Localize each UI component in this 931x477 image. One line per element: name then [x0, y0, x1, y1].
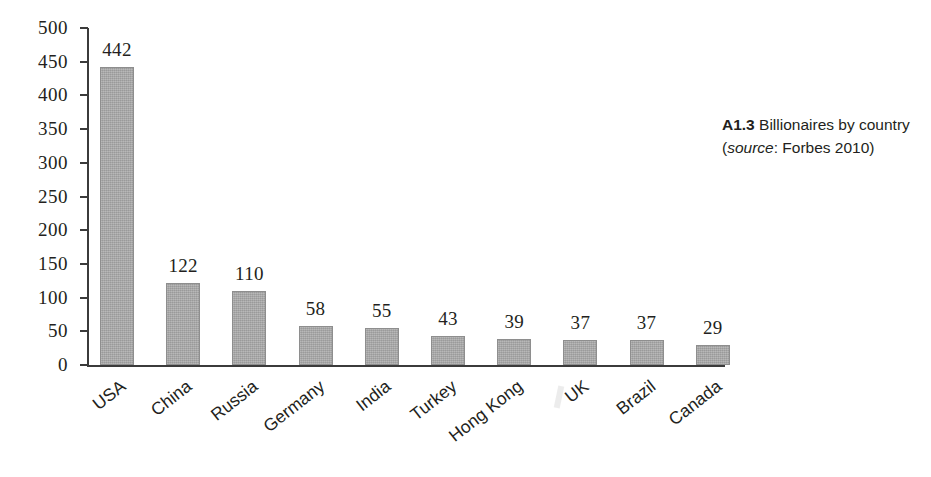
y-axis-tick-label: 150	[38, 253, 68, 275]
bar-value-label: 43	[438, 308, 458, 330]
bar: 29Canada	[696, 345, 730, 365]
bar-value-label: 122	[168, 255, 197, 277]
y-axis-tick	[80, 128, 88, 130]
figure-caption: A1.3 Billionaires by country (source: Fo…	[722, 114, 922, 160]
x-axis-category-label: Canada	[664, 376, 725, 430]
y-axis-tick	[80, 297, 88, 299]
bar: 55India	[365, 328, 399, 365]
bar: 43Turkey	[431, 336, 465, 365]
bar: 58Germany	[299, 326, 333, 365]
scan-artifact	[554, 386, 564, 409]
bar: 442USA	[100, 67, 134, 365]
caption-text-tail: : Forbes 2010)	[774, 139, 875, 156]
bar: 110Russia	[232, 291, 266, 365]
y-axis-tick	[80, 61, 88, 63]
y-axis-tick	[80, 263, 88, 265]
y-axis-tick-label: 200	[38, 219, 68, 241]
bar-value-label: 29	[703, 317, 723, 339]
y-axis-tick	[80, 196, 88, 198]
y-axis-tick-label: 300	[38, 152, 68, 174]
y-axis-tick	[80, 162, 88, 164]
bar-chart-plot-area: 050100150200250300350400450500 442USA122…	[88, 28, 725, 365]
bar-value-label: 58	[306, 298, 326, 320]
bar: 37Brazil	[630, 340, 664, 365]
x-axis-category-label: Brazil	[612, 376, 659, 419]
x-axis-line	[87, 365, 725, 367]
figure-container: 050100150200250300350400450500 442USA122…	[0, 0, 931, 477]
x-axis-category-label: USA	[89, 376, 130, 415]
x-axis-category-label: India	[352, 376, 395, 416]
x-axis-category-label: UK	[561, 376, 593, 408]
y-axis-tick-label: 100	[38, 287, 68, 309]
bar-value-label: 110	[235, 263, 264, 285]
bar-value-label: 37	[571, 312, 591, 334]
bar-value-label: 442	[102, 39, 131, 61]
y-axis-tick-label: 450	[38, 51, 68, 73]
y-axis-tick	[80, 364, 88, 366]
caption-number: A1.3	[722, 116, 755, 133]
x-axis-category-label: China	[147, 376, 196, 421]
y-axis-tick	[80, 27, 88, 29]
y-axis-tick	[80, 229, 88, 231]
bar-value-label: 37	[637, 312, 657, 334]
caption-source-word: source	[727, 139, 774, 156]
y-axis-tick-label: 500	[38, 17, 68, 39]
y-axis-tick	[80, 330, 88, 332]
x-axis-category-label: Turkey	[406, 376, 461, 425]
bar: 122China	[166, 283, 200, 365]
x-axis-category-label: Germany	[259, 376, 329, 437]
bar-value-label: 55	[372, 300, 392, 322]
bar: 39Hong Kong	[497, 339, 531, 365]
y-axis-tick-label: 250	[38, 186, 68, 208]
bar-value-label: 39	[504, 311, 524, 333]
x-axis-category-label: Russia	[207, 376, 262, 425]
y-axis-tick-label: 400	[38, 84, 68, 106]
y-axis-tick-label: 50	[48, 320, 68, 342]
x-axis-category-label: Hong Kong	[445, 376, 527, 446]
bar: 37UK	[563, 340, 597, 365]
y-axis-tick	[80, 94, 88, 96]
y-axis-tick-label: 350	[38, 118, 68, 140]
y-axis-tick-label: 0	[58, 354, 68, 376]
